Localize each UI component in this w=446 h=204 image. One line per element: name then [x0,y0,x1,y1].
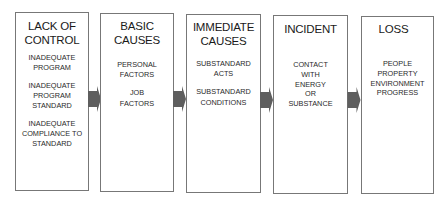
list-item: SUBSTANDARD ACTS [187,59,260,79]
box-items: PERSONAL FACTORS JOB FACTORS [101,60,173,116]
list-item: INADEQUATE COMPLIANCE TO STANDARD [16,119,88,150]
box-basic-causes: BASIC CAUSES PERSONAL FACTORS JOB FACTOR… [100,13,174,192]
list-item: JOB FACTORS [101,88,173,108]
list-item: INADEQUATE PROGRAM STANDARD [16,81,88,112]
box-title: IMMEDIATE CAUSES [187,21,260,48]
arrow-right-icon [260,87,273,113]
box-items: PEOPLE PROPERTY ENVIRONMENT PROGRESS [362,59,433,98]
box-title: BASIC CAUSES [101,20,173,47]
box-items: SUBSTANDARD ACTS SUBSTANDARD CONDITIONS [187,59,260,115]
list-item: CONTACT WITH ENERGY OR SUBSTANCE [274,60,347,109]
list-item: PERSONAL FACTORS [101,60,173,80]
box-title: LACK OF CONTROL [16,20,88,47]
box-loss: LOSS PEOPLE PROPERTY ENVIRONMENT PROGRES… [361,16,434,194]
box-lack-of-control: LACK OF CONTROL INADEQUATE PROGRAM INADE… [15,12,89,191]
box-immediate-causes: IMMEDIATE CAUSES SUBSTANDARD ACTS SUBSTA… [186,14,261,193]
box-items: CONTACT WITH ENERGY OR SUBSTANCE [274,60,347,109]
box-title: LOSS [362,23,425,37]
arrow-right-icon [173,86,186,112]
arrow-right-icon [347,87,360,113]
list-item: INADEQUATE PROGRAM [16,53,88,73]
box-title: INCIDENT [274,23,347,37]
box-items: INADEQUATE PROGRAM INADEQUATE PROGRAM ST… [16,53,88,157]
list-item: SUBSTANDARD CONDITIONS [187,87,260,107]
list-item: PEOPLE PROPERTY ENVIRONMENT PROGRESS [362,59,433,98]
box-incident: INCIDENT CONTACT WITH ENERGY OR SUBSTANC… [273,15,348,194]
